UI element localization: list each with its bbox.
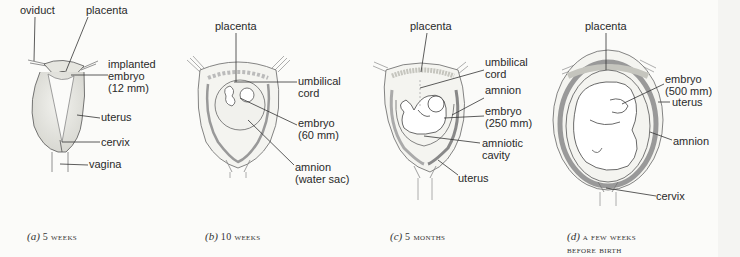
panel-b-drawing (187, 56, 290, 178)
label-amnion-c: amnion (485, 84, 521, 96)
label-vagina-a: vagina (89, 158, 121, 170)
label-embryo-b: embryo (60 mm) (298, 117, 339, 141)
label-embryo-a: implanted embryo (12 mm) (108, 58, 156, 94)
label-amniotic-cavity-c: amniotic cavity (482, 137, 523, 161)
caption-a-text: 5 weeks (40, 231, 77, 242)
label-placenta-a: placenta (86, 4, 128, 16)
label-amnion-d: amnion (673, 135, 709, 147)
caption-c: (c) 5 months (390, 230, 445, 243)
caption-d: (d) a few weeks before birth (567, 230, 636, 256)
caption-b: (b) 10 weeks (205, 230, 261, 243)
caption-a-letter: (a) (27, 230, 40, 242)
label-uterus-c: uterus (458, 172, 489, 184)
label-embryo-c: embryo (250 mm) (485, 105, 532, 129)
label-placenta-c: placenta (410, 20, 452, 32)
caption-a: (a) 5 weeks (27, 230, 77, 243)
label-placenta-b: placenta (215, 20, 257, 32)
fetal-development-figure: oviduct placenta implanted embryo (12 mm… (0, 0, 740, 257)
label-uterus-d: uterus (672, 96, 703, 108)
label-uterus-a: uterus (101, 111, 132, 123)
label-placenta-d: placenta (585, 20, 627, 32)
drawings (0, 0, 740, 257)
label-embryo-d: embryo (500 mm) (665, 73, 712, 97)
panel-d-drawing (553, 50, 663, 206)
panel-c-drawing (373, 62, 468, 200)
caption-c-text: 5 months (402, 231, 445, 242)
caption-b-text: 10 weeks (218, 231, 261, 242)
label-oviduct-a: oviduct (20, 4, 55, 16)
caption-d-letter: (d) (567, 230, 580, 242)
caption-b-letter: (b) (205, 230, 218, 242)
label-amnion-b: amnion (water sac) (295, 161, 349, 185)
label-umbilical-cord-c: umbilical cord (485, 56, 528, 80)
caption-c-letter: (c) (390, 230, 402, 242)
label-cervix-d: cervix (656, 190, 685, 202)
label-cervix-a: cervix (101, 136, 130, 148)
label-umbilical-cord-b: umbilical cord (298, 75, 341, 99)
